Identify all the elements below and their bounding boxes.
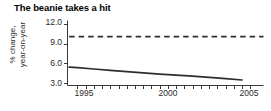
y-tick-label: 6.0 <box>36 59 62 68</box>
x-tick-label: 1995 <box>62 89 106 98</box>
axis-lines <box>68 21 264 86</box>
y-tick-label: 9.0 <box>36 38 62 47</box>
chart-figure: The beanie takes a hit % change, year-on… <box>0 0 271 111</box>
y-tick-label: 12.0 <box>36 18 62 27</box>
series-line-yoy-change <box>69 67 242 80</box>
y-tick-marks <box>64 25 68 84</box>
y-axis-title: % change, year-on-year <box>8 9 27 81</box>
y-axis-title-line-2: year-on-year <box>17 9 27 81</box>
chart-title: The beanie takes a hit <box>14 2 111 14</box>
y-tick-label: 3.0 <box>36 79 62 88</box>
x-tick-label: 2000 <box>146 89 190 98</box>
x-tick-label: 2005 <box>227 89 271 98</box>
y-axis-title-line-1: % change, <box>8 9 18 81</box>
y-tick-label-group: 12.0 9.0 6.0 3.0 <box>36 0 62 111</box>
